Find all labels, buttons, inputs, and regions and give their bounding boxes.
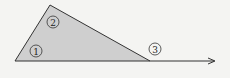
svg-text:2: 2: [50, 18, 56, 28]
angle-label-3: 3: [149, 43, 161, 55]
svg-text:3: 3: [152, 45, 158, 55]
triangle-diagram: 1 2 3: [0, 0, 230, 78]
svg-text:1: 1: [33, 47, 39, 57]
